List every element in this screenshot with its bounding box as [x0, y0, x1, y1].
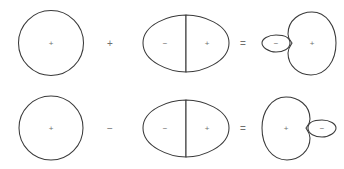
orbital-canvas: + + − + = − +	[0, 0, 344, 169]
p-orbital-bottom: − +	[143, 100, 229, 157]
s-orbital-bottom: +	[19, 96, 83, 160]
row-subtraction: + − − + = + −	[19, 96, 336, 160]
p-orbital-left-sign-bottom: −	[163, 124, 168, 133]
row-addition: + + − + = − +	[19, 11, 337, 76]
p-orbital-right-sign-top: +	[205, 39, 210, 48]
sp-hybrid-small-lobe-sign-bottom: −	[320, 124, 325, 133]
s-orbital-top: +	[19, 11, 84, 76]
p-orbital-top: − +	[143, 15, 229, 72]
operator-minus-bottom: −	[107, 123, 113, 134]
operator-equals-bottom: =	[240, 123, 246, 134]
sp-hybrid-top: − +	[262, 12, 336, 75]
operator-equals-top: =	[240, 38, 246, 49]
sp-hybrid-big-lobe-sign-top: +	[310, 39, 315, 48]
orbital-hybridization-diagram: + + − + = − +	[0, 0, 344, 169]
s-orbital-sign-bottom: +	[49, 124, 54, 133]
sp-hybrid-big-lobe-sign-bottom: +	[284, 124, 289, 133]
p-orbital-right-sign-bottom: +	[205, 124, 210, 133]
operator-plus-top: +	[107, 38, 113, 49]
sp-hybrid-small-lobe-sign-top: −	[274, 39, 279, 48]
p-orbital-left-sign-top: −	[163, 39, 168, 48]
s-orbital-sign-top: +	[49, 39, 54, 48]
sp-hybrid-bottom: + −	[262, 97, 336, 160]
